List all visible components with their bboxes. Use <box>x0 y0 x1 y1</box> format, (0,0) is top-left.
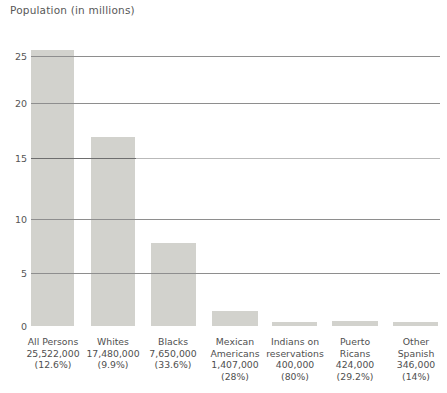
bar-blacks <box>151 243 196 326</box>
gridline-5 <box>31 273 440 274</box>
xlabel-name-line-1: Other <box>377 336 447 348</box>
xlabel-name-line-2: Spanish <box>377 348 447 360</box>
gridline-10 <box>31 219 440 220</box>
bar-whites <box>91 137 135 326</box>
xlabel-other-spanish: Other Spanish 346,000 (14%) <box>377 336 447 382</box>
xlabel-count: 346,000 <box>377 359 447 371</box>
bar-all-persons <box>31 50 74 326</box>
bar-mexican-americans <box>212 311 258 326</box>
ytick-label-10: 10 <box>3 214 27 225</box>
ytick-label-15: 15 <box>3 153 27 164</box>
gridline-20 <box>31 103 440 104</box>
gridline-25 <box>31 56 440 57</box>
gridline-15-dark-segment <box>31 158 136 159</box>
ytick-label-20: 20 <box>3 98 27 109</box>
xlabel-percent: (14%) <box>377 371 447 383</box>
ytick-label-5: 5 <box>3 268 27 279</box>
gridline-0-baseline <box>31 326 440 327</box>
x-axis-labels: All Persons 25,522,000 (12.6%) Whites 17… <box>0 330 447 392</box>
ytick-label-25: 25 <box>3 51 27 62</box>
population-bar-chart: Population (in millions) 25 20 15 10 <box>0 0 447 393</box>
